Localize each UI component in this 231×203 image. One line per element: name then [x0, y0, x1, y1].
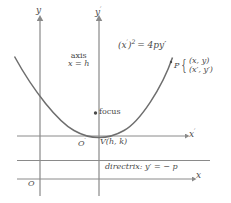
point-p-coords-primed: (x′, y′): [189, 66, 213, 75]
parabola-equation: (x′)2 = 4py′: [118, 39, 166, 50]
point-p-label: P { (x, y) (x′, y′): [174, 57, 213, 75]
point-p-coordinates: (x, y) (x′, y′): [189, 57, 213, 75]
equation-lead: (x: [118, 40, 127, 50]
y-axis-label: y: [36, 6, 41, 15]
focus-label: focus: [99, 108, 121, 116]
axis-annotation-equation: x = h: [68, 60, 89, 68]
point-p-dot: [170, 61, 172, 63]
point-p-name: P: [174, 62, 179, 70]
xprime-axis-label: x′: [189, 128, 195, 139]
directrix-label: directrix: y′ = − p: [105, 163, 178, 171]
focus-dot: [94, 111, 97, 114]
xprime-axis-label-prime: ′: [194, 127, 195, 134]
yprime-axis-label-prime: ′: [100, 5, 101, 12]
parabola-curve: [15, 57, 173, 138]
axis-annotation: axis x = h: [68, 52, 89, 69]
equation-exponent: 2: [132, 38, 136, 45]
equation-tail: = 4py′: [137, 40, 166, 50]
x-axis-label: x: [196, 171, 201, 180]
yprime-axis-label: y′: [95, 6, 101, 17]
brace-icon: {: [182, 58, 187, 73]
vertex-label: V(h, k): [100, 138, 127, 146]
parabola-diagram: y y′ x′ x (x′)2 = 4py′ axis x = h focus …: [0, 0, 231, 203]
origin-prime-label: O′: [78, 138, 86, 148]
origin-label: O: [28, 180, 35, 188]
origin-prime-mark: ′: [85, 137, 86, 143]
